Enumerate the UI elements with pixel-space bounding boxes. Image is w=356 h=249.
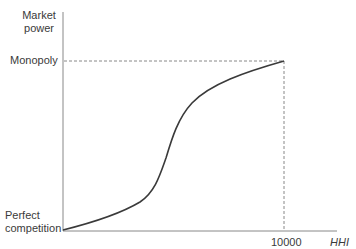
- chart-plot: [0, 0, 356, 249]
- market-power-curve: [63, 61, 284, 230]
